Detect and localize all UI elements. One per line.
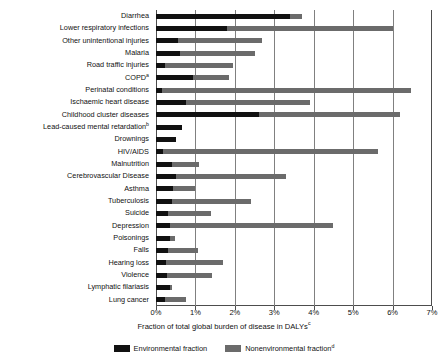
bar-segment-nonenvironmental xyxy=(170,223,334,228)
x-tick-label-5%: 5% xyxy=(348,308,359,317)
category-label-text: Malaria xyxy=(125,48,149,57)
category-label-text: Cerebrovascular Disease xyxy=(67,171,149,180)
bar-row xyxy=(156,199,432,204)
bar-segment-nonenvironmental xyxy=(162,88,410,93)
bar-row xyxy=(156,248,432,253)
bar-segment-nonenvironmental xyxy=(193,75,228,80)
bar-segment-nonenvironmental xyxy=(166,260,223,265)
category-label-text: Tuberculosis xyxy=(108,196,149,205)
category-label-text: Lung cancer xyxy=(109,295,149,304)
category-label-text: COPD xyxy=(125,73,146,82)
bar-segment-nonenvironmental xyxy=(170,236,175,241)
x-axis-title-footnote: c xyxy=(308,320,311,326)
nonenvironmental-swatch-icon xyxy=(225,345,241,352)
bar-row xyxy=(156,26,432,31)
category-label-footnote: a xyxy=(146,71,149,77)
category-label-text: Other unintentional injuries xyxy=(62,36,149,45)
chart-legend: Environmental fraction Nonenvironmental … xyxy=(0,344,448,353)
bar-row xyxy=(156,100,432,105)
bar-row xyxy=(156,285,432,290)
category-label: Depression xyxy=(112,222,149,230)
x-tick-label-4%: 4% xyxy=(308,308,319,317)
bar-row xyxy=(156,174,432,179)
category-label-text: Malnutrition xyxy=(111,159,149,168)
category-label-text: Perinatal conditions xyxy=(85,85,149,94)
category-label: Hearing loss xyxy=(108,259,149,267)
bar-segment-nonenvironmental xyxy=(176,174,286,179)
bar-segment-environmental xyxy=(156,63,165,68)
x-tick-label-6%: 6% xyxy=(387,308,398,317)
bar-segment-environmental xyxy=(156,260,166,265)
legend-item-environmental: Environmental fraction xyxy=(114,344,208,353)
category-label: Lead-caused mental retardationb xyxy=(43,123,149,131)
category-label: Ischaemic heart disease xyxy=(70,98,149,106)
category-label: Lung cancer xyxy=(109,296,149,304)
bar-row xyxy=(156,236,432,241)
bar-segment-nonenvironmental xyxy=(165,297,186,302)
bar-row xyxy=(156,211,432,216)
legend-label-nonenvironmental: Nonenvironmental fractiond xyxy=(245,344,334,353)
category-label-text: Lower respiratory infections xyxy=(60,23,149,32)
bar-segment-environmental xyxy=(156,75,193,80)
bar-segment-environmental xyxy=(156,112,259,117)
category-label-text: Lead-caused mental retardation xyxy=(43,122,146,131)
bar-segment-nonenvironmental xyxy=(186,100,310,105)
category-label-text: HIV/AIDS xyxy=(118,147,149,156)
category-label: HIV/AIDS xyxy=(118,148,149,156)
bar-segment-nonenvironmental xyxy=(180,51,255,56)
bar-segment-environmental xyxy=(156,236,170,241)
bar-segment-nonenvironmental xyxy=(259,112,401,117)
bar-row xyxy=(156,38,432,43)
bar-segment-environmental xyxy=(156,186,173,191)
category-label: Asthma xyxy=(124,185,149,193)
bar-segment-environmental xyxy=(156,199,172,204)
bar-segment-environmental xyxy=(156,273,167,278)
category-label-text: Lymphatic filariasis xyxy=(88,282,149,291)
x-tick-label-2%: 2% xyxy=(229,308,240,317)
legend-item-nonenvironmental: Nonenvironmental fractiond xyxy=(225,344,334,353)
category-label: Malnutrition xyxy=(111,160,149,168)
bar-segment-nonenvironmental xyxy=(172,162,200,167)
bar-segment-nonenvironmental xyxy=(290,14,302,19)
category-axis-labels: DiarrheaLower respiratory infectionsOthe… xyxy=(0,10,153,306)
bar-segment-nonenvironmental xyxy=(170,285,172,290)
bar-row xyxy=(156,149,432,154)
bar-segment-nonenvironmental xyxy=(165,63,233,68)
bar-segment-nonenvironmental xyxy=(167,273,212,278)
category-label-text: Poisonings xyxy=(113,233,149,242)
category-label: Perinatal conditions xyxy=(85,86,149,94)
category-label-text: Diarrhea xyxy=(121,11,149,20)
bar-segment-environmental xyxy=(156,51,180,56)
environmental-swatch-icon xyxy=(114,345,130,352)
stacked-bar-chart: DiarrheaLower respiratory infectionsOthe… xyxy=(0,0,448,361)
bar-segment-environmental xyxy=(156,297,165,302)
bar-segment-environmental xyxy=(156,125,182,130)
bar-row xyxy=(156,125,432,130)
x-tick-label-0%: 0% xyxy=(151,308,162,317)
bar-row xyxy=(156,162,432,167)
bar-segment-environmental xyxy=(156,285,170,290)
legend-label-environmental: Environmental fraction xyxy=(134,344,208,353)
x-axis-title: Fraction of total global burden of disea… xyxy=(0,322,448,331)
bar-segment-nonenvironmental xyxy=(178,38,263,43)
bar-segment-environmental xyxy=(156,38,178,43)
category-label: Childhood cluster diseases xyxy=(62,111,149,119)
plot-area xyxy=(156,10,432,306)
bar-segment-nonenvironmental xyxy=(173,186,196,191)
category-label: Violence xyxy=(121,271,149,279)
bar-segment-environmental xyxy=(156,223,170,228)
category-label-text: Drownings xyxy=(115,134,149,143)
category-label-text: Asthma xyxy=(124,184,149,193)
bar-row xyxy=(156,112,432,117)
bar-segment-nonenvironmental xyxy=(227,26,393,31)
category-label: Poisonings xyxy=(113,234,149,242)
category-label: Malaria xyxy=(125,49,149,57)
bar-segment-nonenvironmental xyxy=(168,248,198,253)
category-label: Road traffic injuries xyxy=(87,61,149,69)
bar-row xyxy=(156,63,432,68)
x-tick-label-7%: 7% xyxy=(427,308,438,317)
category-label: Other unintentional injuries xyxy=(62,37,149,45)
category-label-footnote: b xyxy=(146,121,149,127)
category-label-text: Suicide xyxy=(125,208,149,217)
x-axis-title-text: Fraction of total global burden of disea… xyxy=(137,322,307,331)
